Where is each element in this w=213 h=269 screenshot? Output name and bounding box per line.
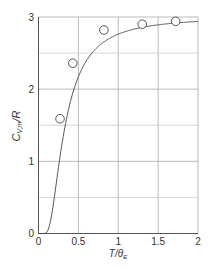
y-tick-label: 3 — [28, 12, 34, 23]
x-tick-label: 0 — [36, 236, 42, 247]
data-point — [100, 26, 109, 35]
x-tick-label: 1.5 — [151, 236, 165, 247]
y-tick-label: 2 — [28, 84, 34, 95]
y-tick-label: 0 — [28, 228, 34, 239]
x-tick-label: 0.5 — [71, 236, 85, 247]
x-tick-label: 2 — [195, 236, 201, 247]
x-axis-label: T/θE — [109, 248, 128, 260]
y-axis-label: CV,m/R — [10, 110, 23, 141]
y-tick-label: 1 — [28, 156, 34, 167]
data-point — [68, 59, 77, 68]
data-point — [56, 114, 65, 123]
grid — [39, 17, 199, 234]
data-point — [171, 17, 180, 26]
heat-capacity-chart: 00.511.520123 T/θE CV,m/R — [0, 0, 213, 269]
x-tick-label: 1 — [115, 236, 121, 247]
data-point — [138, 20, 147, 29]
tick-labels: 00.511.520123 — [28, 12, 201, 248]
